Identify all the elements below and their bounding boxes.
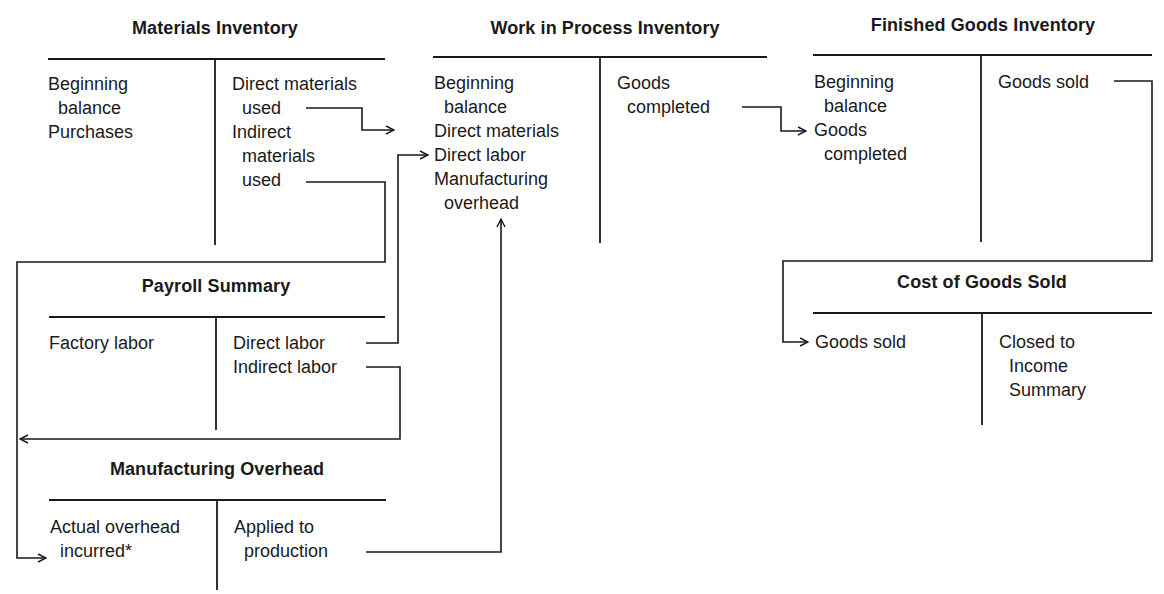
entry-used: used [232,96,281,120]
entry-purchases: Purchases [48,120,133,144]
finished-goods-title: Finished Goods Inventory [871,15,1095,36]
entry-completed: completed [814,142,907,166]
entry-balance: balance [48,96,121,120]
entry-goods-sold: Goods sold [998,70,1089,94]
entry-income: Income [999,354,1068,378]
flow-applied-overhead-arrow [366,219,501,552]
entry-completed: completed [617,95,710,119]
manufacturing-overhead-title: Manufacturing Overhead [110,459,324,480]
entry-production: production [234,539,328,563]
entry-overhead: overhead [434,191,519,215]
entry-direct-labor: Direct labor [233,331,325,355]
entry-beginning: Beginning [814,70,894,94]
entry-summary: Summary [999,378,1086,402]
entry-applied-to: Applied to [234,515,314,539]
entry-direct-materials: Direct materials [434,119,559,143]
flow-direct-materials-arrow [306,108,394,130]
payroll-summary-title: Payroll Summary [142,276,291,297]
entry-indirect: Indirect [232,120,291,144]
flow-goods-completed-arrow [742,107,806,131]
entry-goods-sold: Goods sold [815,330,906,354]
entry-actual-overhead: Actual overhead [50,515,180,539]
entry-balance: balance [434,95,507,119]
entry-goods: Goods [617,71,670,95]
entry-factory-labor: Factory labor [49,331,154,355]
entry-incurred: incurred* [50,539,132,563]
materials-inventory-title: Materials Inventory [132,18,298,39]
wip-inventory-title: Work in Process Inventory [490,18,719,39]
entry-indirect-labor: Indirect labor [233,355,337,379]
flow-direct-labor-arrow [366,155,428,343]
entry-materials: materials [232,144,315,168]
entry-direct-labor: Direct labor [434,143,526,167]
entry-used: used [232,168,281,192]
entry-goods: Goods [814,118,867,142]
entry-balance: balance [814,94,887,118]
connector-lines [0,0,1164,594]
entry-closed-to: Closed to [999,330,1075,354]
entry-beginning: Beginning [48,72,128,96]
entry-direct-materials: Direct materials [232,72,357,96]
entry-beginning: Beginning [434,71,514,95]
entry-manufacturing: Manufacturing [434,167,548,191]
flow-indirect-labor-arrow [20,367,400,439]
cost-of-goods-sold-title: Cost of Goods Sold [897,272,1067,293]
